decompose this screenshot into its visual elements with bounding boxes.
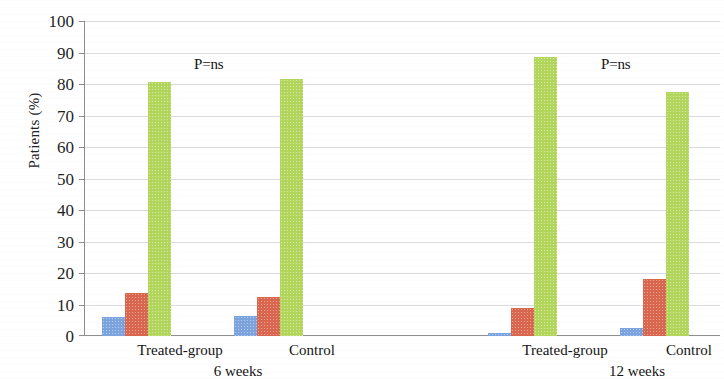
y-tick-mark xyxy=(79,21,85,22)
bar-blue[interactable] xyxy=(102,317,125,336)
bar-chart: Patients (%) 100 90 80 70 60 50 40 30 20… xyxy=(0,0,724,381)
y-tick-label: 40 xyxy=(34,202,74,219)
bar-green[interactable] xyxy=(280,79,303,336)
x-period-label-12weeks: 12 weeks xyxy=(609,363,665,380)
y-tick-label: 60 xyxy=(34,139,74,156)
x-category-label-control-6weeks: Control xyxy=(289,342,335,359)
y-tick-label: 10 xyxy=(34,296,74,313)
y-tick-label: 30 xyxy=(34,233,74,250)
x-category-label-control-12weeks: Control xyxy=(666,342,712,359)
bar-green[interactable] xyxy=(534,57,557,336)
bar-group-control-12weeks xyxy=(620,21,702,336)
y-tick-mark xyxy=(79,147,85,148)
bar-red[interactable] xyxy=(257,297,280,336)
bar-blue[interactable] xyxy=(488,333,511,336)
y-tick-mark xyxy=(79,335,85,336)
x-period-label-6weeks: 6 weeks xyxy=(214,363,263,380)
bar-group-treated-6weeks xyxy=(102,21,184,336)
bar-group-treated-12weeks xyxy=(488,21,570,336)
bar-blue[interactable] xyxy=(620,328,643,336)
y-axis-tick-labels: 100 90 80 70 60 50 40 30 20 10 0 xyxy=(28,0,74,381)
x-category-label-treated-6weeks: Treated-group xyxy=(137,342,222,359)
y-tick-label: 70 xyxy=(34,107,74,124)
bar-red[interactable] xyxy=(643,279,666,336)
annotation-p-value-6weeks: P=ns xyxy=(194,56,223,73)
bar-red[interactable] xyxy=(511,308,534,336)
y-tick-mark xyxy=(79,210,85,211)
y-tick-mark xyxy=(79,273,85,274)
y-tick-label: 80 xyxy=(34,76,74,93)
y-tick-label: 90 xyxy=(34,44,74,61)
x-category-label-treated-12weeks: Treated-group xyxy=(522,342,607,359)
y-tick-mark xyxy=(79,53,85,54)
bar-red[interactable] xyxy=(125,293,148,336)
y-tick-mark xyxy=(79,305,85,306)
y-tick-label: 50 xyxy=(34,170,74,187)
y-tick-label: 0 xyxy=(34,328,74,345)
bar-blue[interactable] xyxy=(234,316,257,336)
bar-group-control-6weeks xyxy=(234,21,316,336)
y-tick-mark xyxy=(79,242,85,243)
y-tick-mark xyxy=(79,84,85,85)
bar-green[interactable] xyxy=(148,82,171,336)
y-tick-label: 20 xyxy=(34,265,74,282)
annotation-p-value-12weeks: P=ns xyxy=(601,56,630,73)
y-tick-label: 100 xyxy=(34,13,74,30)
y-tick-mark xyxy=(79,116,85,117)
y-tick-mark xyxy=(79,179,85,180)
bar-green[interactable] xyxy=(666,92,689,336)
